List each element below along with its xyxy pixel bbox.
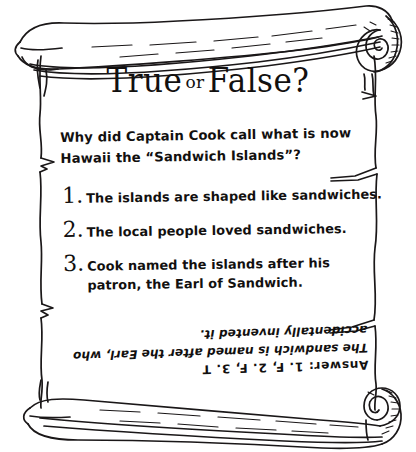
card-title: TrueorFalse? [0,62,416,98]
quiz-option-3[interactable]: 3. Cook named the islands after his patr… [63,251,384,296]
quiz-option-1[interactable]: 1. The islands are shaped like sandwiche… [62,184,382,209]
option-text-3: Cook named the islands after his patron,… [87,251,384,295]
option-number-3: 3. [63,253,87,274]
option-number-1: 1. [62,186,86,207]
bottom-roll-left-cap [24,408,30,424]
option-number-2: 2. [62,220,86,241]
top-roll-outer [20,6,392,42]
left-edge-2 [40,172,42,304]
bottom-roll-hatching [100,410,358,433]
top-roll-left-cap [15,42,20,56]
title-true: True [107,61,183,99]
title-false: False? [208,61,310,99]
quiz-question: Why did Captain Cook call what is now Ha… [60,123,361,169]
quiz-option-2[interactable]: 2. The local people loved sandwiches. [62,217,382,242]
quiz-options-list: 1. The islands are shaped like sandwiche… [62,184,384,309]
option-text-2: The local people loved sandwiches. [86,218,346,242]
top-roll-left-inner [21,48,62,50]
answer-key-block: Answer: 1. F, 2. F, 3. T The sandwich is… [47,320,378,380]
bottom-left-riser-2 [47,382,48,402]
bottom-roll-left-inner [30,416,70,418]
title-connector: or [182,72,207,92]
option-text-1: The islands are shaped like sandwiches. [86,184,382,209]
